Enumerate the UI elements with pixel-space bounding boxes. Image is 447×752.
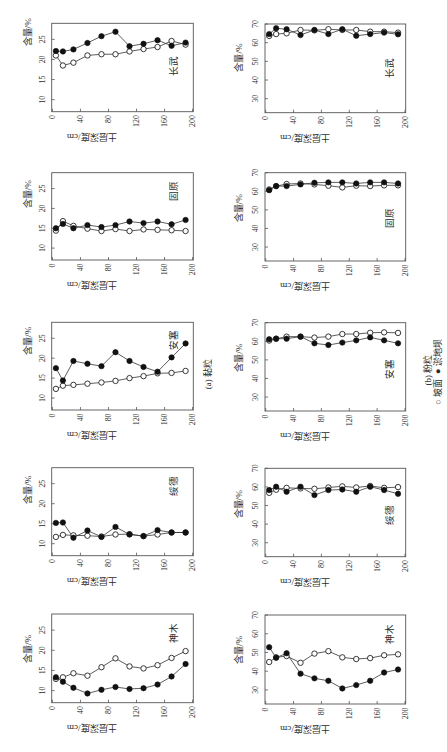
data-point-dam <box>127 532 132 537</box>
data-point-dam <box>141 364 146 369</box>
data-point-slope <box>85 53 90 58</box>
x-tick-label: 80 <box>104 559 113 567</box>
site-label: 神木 <box>384 624 395 644</box>
data-point-dam <box>183 341 188 346</box>
y-tick-label: 20 <box>38 354 47 362</box>
y-tick-label: 40 <box>251 76 260 84</box>
data-point-dam <box>155 369 160 374</box>
x-tick-label: 120 <box>345 707 354 719</box>
subplot: 304050607004080120160200含量/%土层深度/cm安塞 <box>233 319 410 442</box>
chart-silt: 304050607004080120160200含量/%土层深度/cm长武304… <box>233 20 410 735</box>
data-point-dam <box>169 222 174 227</box>
legend-label-slope: 坡面 <box>432 379 443 397</box>
data-point-slope <box>113 656 118 661</box>
data-point-dam <box>326 342 331 347</box>
y-tick-label: 70 <box>251 319 260 327</box>
data-point-slope <box>169 370 174 375</box>
data-point-slope <box>395 330 400 335</box>
data-point-slope <box>127 228 132 233</box>
data-point-dam <box>155 682 160 687</box>
data-point-dam <box>53 365 58 370</box>
data-point-slope <box>85 673 90 678</box>
data-point-slope <box>312 486 317 491</box>
x-tick-label: 120 <box>132 559 141 571</box>
data-point-slope <box>127 664 132 669</box>
data-point-slope <box>354 331 359 336</box>
data-point-dam <box>113 29 118 34</box>
y-tick-label: 30 <box>251 95 260 103</box>
y-tick-label: 70 <box>251 20 260 28</box>
x-tick-label: 0 <box>48 559 57 563</box>
site-label: 绥德 <box>168 476 179 496</box>
x-tick-label: 0 <box>48 413 57 417</box>
data-point-dam <box>127 358 132 363</box>
data-point-dam <box>99 687 104 692</box>
x-tick-label: 200 <box>188 559 197 571</box>
data-point-dam <box>312 341 317 346</box>
data-point-dam <box>266 487 271 492</box>
data-point-slope <box>60 383 65 388</box>
x-tick-label: 120 <box>345 264 354 276</box>
data-point-dam <box>395 341 400 346</box>
subplot: 1015202504080120160200含量/%土层深度/cm安塞 <box>22 322 198 441</box>
subplot: 1015202504080120160200含量/%土层深度/cm固原 <box>22 173 198 291</box>
data-point-slope <box>354 656 359 661</box>
data-point-dam <box>354 181 359 186</box>
y-axis-label: 含量/% <box>22 18 33 47</box>
y-axis-label: 含量/% <box>233 490 244 519</box>
data-point-dam <box>340 340 345 345</box>
x-tick-label: 120 <box>345 116 354 128</box>
data-point-slope <box>71 382 76 387</box>
data-point-dam <box>141 41 146 46</box>
data-point-slope <box>99 380 104 385</box>
data-point-dam <box>155 37 160 42</box>
data-point-dam <box>354 489 359 494</box>
data-point-dam <box>71 535 76 540</box>
x-tick-label: 40 <box>289 414 298 422</box>
data-point-dam <box>113 684 118 689</box>
x-axis-label: 土层深度/cm <box>280 724 330 735</box>
data-point-dam <box>141 220 146 225</box>
subplot: 304050607004080120160200含量/%土层深度/cm绥德 <box>233 464 410 587</box>
subplot: 1015202504080120160200含量/%土层深度/cm神木 <box>22 614 198 734</box>
data-point-slope <box>395 484 400 489</box>
data-point-dam <box>141 533 146 538</box>
data-point-dam <box>85 528 90 533</box>
x-tick-label: 200 <box>401 560 410 572</box>
y-tick-label: 25 <box>38 185 47 193</box>
x-tick-label: 80 <box>104 263 113 271</box>
y-tick-label: 60 <box>251 187 260 195</box>
site-label: 固原 <box>385 208 395 228</box>
data-point-slope <box>183 228 188 233</box>
x-tick-label: 120 <box>345 414 354 426</box>
data-point-dam <box>381 30 386 35</box>
data-point-dam <box>155 527 160 532</box>
data-point-dam <box>354 338 359 343</box>
x-tick-label: 40 <box>289 707 298 715</box>
data-point-dam <box>169 530 174 535</box>
y-tick-label: 30 <box>251 243 260 251</box>
data-point-dam <box>60 221 65 226</box>
data-point-slope <box>273 31 278 36</box>
data-point-slope <box>381 653 386 658</box>
y-tick-label: 10 <box>38 687 47 695</box>
data-point-dam <box>326 678 331 683</box>
data-point-slope <box>155 663 160 668</box>
x-tick-label: 0 <box>48 706 57 710</box>
data-point-dam <box>273 655 278 660</box>
data-point-dam <box>326 180 331 185</box>
data-point-dam <box>273 26 278 31</box>
data-point-dam <box>298 334 303 339</box>
y-axis-label: 含量/% <box>233 194 244 223</box>
data-point-dam <box>326 487 331 492</box>
data-point-dam <box>169 43 174 48</box>
data-point-dam <box>183 530 188 535</box>
data-point-dam <box>60 679 65 684</box>
data-point-dam <box>113 222 118 227</box>
data-point-dam <box>273 336 278 341</box>
data-point-slope <box>169 228 174 233</box>
y-axis-label: 含量/% <box>22 326 33 355</box>
x-tick-label: 80 <box>104 115 113 123</box>
y-tick-label: 25 <box>38 334 47 342</box>
data-point-slope <box>127 49 132 54</box>
